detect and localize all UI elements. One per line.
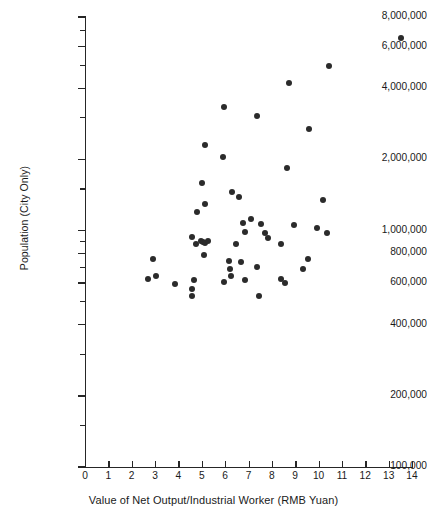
y-tick-minor (80, 65, 86, 66)
y-tick-label: 400,000 (353, 318, 427, 329)
data-point (202, 201, 208, 207)
data-point (236, 194, 242, 200)
y-tick-minor (80, 301, 86, 302)
data-point (282, 280, 288, 286)
x-tick-label: 11 (331, 470, 353, 481)
data-point (254, 113, 260, 119)
x-tick (365, 461, 366, 468)
x-tick (108, 461, 109, 468)
y-tick-label: 6,000,000 (353, 40, 427, 51)
x-tick (155, 461, 156, 468)
x-tick-label: 8 (261, 470, 283, 481)
data-point (150, 256, 156, 262)
x-tick-label: 13 (378, 470, 400, 481)
data-point (153, 273, 159, 279)
x-tick-label: 1 (97, 470, 119, 481)
y-tick-label: 200,000 (353, 389, 427, 400)
data-point (320, 197, 326, 203)
data-point (189, 293, 195, 299)
data-point (305, 256, 311, 262)
data-point (300, 266, 306, 272)
x-tick (295, 461, 296, 468)
x-tick (319, 461, 320, 468)
data-point (278, 241, 284, 247)
y-tick-label: 800,000 (353, 246, 427, 257)
data-point (240, 220, 246, 226)
data-point (233, 241, 239, 247)
data-point (229, 189, 235, 195)
y-tick-minor (80, 354, 86, 355)
y-tick-major (78, 16, 86, 17)
y-tick-minor (80, 425, 86, 426)
data-point (227, 266, 233, 272)
y-tick-minor (80, 241, 86, 242)
data-point (221, 104, 227, 110)
x-tick (249, 461, 250, 468)
data-point (242, 277, 248, 283)
x-tick (272, 461, 273, 468)
data-point (265, 235, 271, 241)
data-point (254, 264, 260, 270)
y-tick-label: 8,000,000 (353, 10, 427, 21)
x-tick-label: 7 (238, 470, 260, 481)
x-tick-label: 2 (121, 470, 143, 481)
data-point (199, 180, 205, 186)
data-point (172, 281, 178, 287)
data-point (202, 142, 208, 148)
y-tick-major (78, 253, 86, 254)
data-point (205, 238, 211, 244)
x-tick-label: 4 (167, 470, 189, 481)
data-point (220, 154, 226, 160)
data-point (326, 63, 332, 69)
x-tick (225, 461, 226, 468)
y-tick-major (78, 230, 86, 231)
data-point (221, 279, 227, 285)
x-tick (132, 461, 133, 468)
data-point (201, 252, 207, 258)
x-tick-label: 14 (401, 470, 423, 481)
y-tick-major (78, 282, 86, 283)
y-tick-major (78, 88, 86, 89)
x-tick-label: 0 (74, 470, 96, 481)
data-point (286, 80, 292, 86)
x-tick-label: 9 (284, 470, 306, 481)
data-point (145, 276, 151, 282)
data-point (248, 216, 254, 222)
x-tick-label: 12 (354, 470, 376, 481)
y-axis-title: Population (City Only) (18, 138, 30, 298)
y-tick-major (78, 395, 86, 396)
data-point (193, 241, 199, 247)
y-tick-minor (80, 188, 86, 189)
x-tick-label: 5 (191, 470, 213, 481)
data-point (194, 209, 200, 215)
data-point (189, 234, 195, 240)
x-tick (178, 461, 179, 468)
data-point (226, 258, 232, 264)
data-point (191, 277, 197, 283)
y-tick-label: 4,000,000 (353, 81, 427, 92)
y-tick-major (78, 324, 86, 325)
y-tick-major (78, 159, 86, 160)
x-tick (342, 461, 343, 468)
data-point (284, 165, 290, 171)
x-tick-label: 3 (144, 470, 166, 481)
data-point (189, 286, 195, 292)
y-tick-label: 1,000,000 (353, 224, 427, 235)
y-tick-label: 2,000,000 (353, 152, 427, 163)
x-tick (412, 461, 413, 468)
data-point (238, 259, 244, 265)
data-point (242, 229, 248, 235)
scatter-chart: Population (City Only) 100,000200,000400… (0, 0, 427, 521)
x-tick (202, 461, 203, 468)
data-point (258, 221, 264, 227)
y-tick-minor (80, 117, 86, 118)
y-tick-label: 600,000 (353, 276, 427, 287)
data-point (228, 273, 234, 279)
data-point (256, 293, 262, 299)
y-tick-minor (80, 267, 86, 268)
x-tick (85, 461, 86, 468)
data-point (291, 222, 297, 228)
x-tick-label: 6 (214, 470, 236, 481)
y-tick-major (78, 46, 86, 47)
x-axis-title: Value of Net Output/Industrial Worker (R… (0, 494, 427, 506)
